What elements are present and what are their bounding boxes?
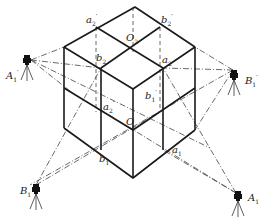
label-b1-prime: b1′	[145, 90, 157, 103]
station-B1-prime	[228, 70, 240, 96]
station-B1	[30, 184, 42, 210]
label-a2: a2	[162, 55, 172, 67]
label-O: O	[126, 117, 134, 127]
label-b2-prime: b2′	[161, 14, 173, 27]
label-O2: O2	[126, 33, 138, 45]
station-A1	[232, 191, 244, 217]
label-a2-double: a2′	[103, 101, 114, 114]
label-B1-prime: B1′	[245, 75, 258, 88]
label-A1: A1	[248, 193, 259, 205]
station-A1-prime	[21, 55, 33, 81]
label-a1: a1	[172, 145, 182, 157]
label-A1-prime: A1′	[6, 70, 19, 83]
label-b2: b2	[96, 53, 106, 65]
label-a2-prime: a2′	[86, 14, 97, 27]
label-b1: b1	[99, 154, 109, 166]
label-B1: B1	[20, 186, 31, 198]
